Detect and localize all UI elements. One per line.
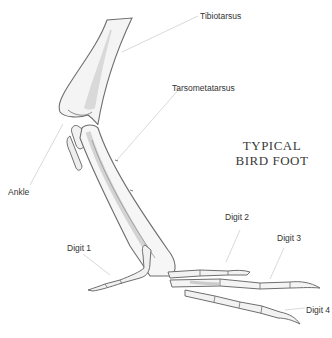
leader-digit3	[270, 248, 284, 279]
label-ankle: Ankle	[8, 188, 29, 197]
label-tarsometatarsus: Tarsometatarsus	[172, 84, 235, 93]
tibiotarsus-bone	[59, 18, 132, 124]
leader-tarsometatarsus	[117, 88, 180, 160]
digit4-bone	[185, 290, 300, 324]
leader-tibiotarsus	[122, 16, 198, 52]
leader-digit2	[226, 230, 240, 262]
label-tibiotarsus: Tibiotarsus	[200, 12, 241, 21]
leader-digit1	[83, 254, 110, 275]
digit2-bone	[168, 270, 250, 278]
label-digit2: Digit 2	[225, 213, 249, 222]
bird-foot-diagram: Tibiotarsus Tarsometatarsus Ankle Digit …	[0, 0, 332, 338]
label-digit4: Digit 4	[306, 306, 330, 315]
bird-foot-illustration	[0, 0, 332, 338]
label-digit1: Digit 1	[67, 244, 91, 253]
digit3-bone	[170, 279, 320, 289]
label-digit3: Digit 3	[277, 234, 301, 243]
title-line-2: BIRD FOOT	[222, 153, 322, 168]
front-digits	[168, 270, 320, 324]
title-line-1: TYPICAL	[222, 138, 322, 153]
diagram-title: TYPICAL BIRD FOOT	[222, 138, 322, 168]
leader-digit4	[285, 308, 305, 310]
leader-ankle	[30, 124, 63, 185]
